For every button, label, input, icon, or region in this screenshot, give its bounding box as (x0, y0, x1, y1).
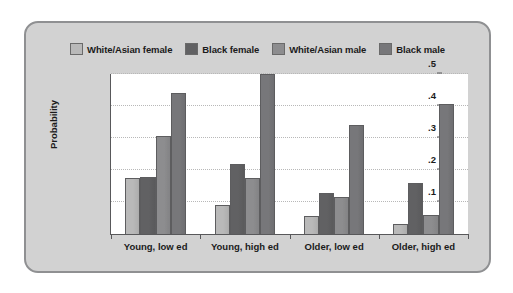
x-tick-mark (468, 234, 469, 239)
legend-item[interactable]: White/Asian male (272, 43, 366, 55)
x-tick-mark (111, 234, 112, 239)
bar[interactable] (304, 216, 319, 234)
x-tick-label: Young, low ed (124, 241, 188, 252)
bar[interactable] (319, 193, 334, 234)
x-tick-label: Young, high ed (211, 241, 279, 252)
plot-area: .0.1.2.3.4.5 Young, low edYoung, high ed… (110, 74, 468, 235)
bar[interactable] (349, 125, 364, 234)
x-tick-label: Older, low ed (305, 241, 364, 252)
bar[interactable] (423, 215, 438, 234)
bar-group (290, 74, 379, 234)
legend-item[interactable]: Black male (379, 43, 445, 55)
legend-label: Black female (202, 44, 259, 55)
x-tick-mark (290, 234, 291, 239)
figure-frame: White/Asian femaleBlack femaleWhite/Asia… (24, 21, 491, 273)
legend-swatch-icon (70, 43, 83, 55)
x-tick-mark (200, 234, 201, 239)
bar[interactable] (215, 205, 230, 234)
bars-layer (111, 74, 468, 234)
bar[interactable] (171, 93, 186, 234)
x-tick-label: Older, high ed (392, 241, 455, 252)
bar[interactable] (408, 183, 423, 234)
legend-item[interactable]: White/Asian female (70, 43, 172, 55)
y-axis-title: Probability (48, 80, 59, 170)
bar[interactable] (140, 177, 155, 234)
x-tick-mark (379, 234, 380, 239)
bar[interactable] (230, 164, 245, 234)
plot-wrapper: .0.1.2.3.4.5 Young, low edYoung, high ed… (84, 74, 468, 235)
bar-group (111, 74, 200, 234)
bar-group (200, 74, 289, 234)
y-tick-label: .5 (414, 58, 436, 69)
bar[interactable] (245, 178, 260, 234)
bar[interactable] (156, 136, 171, 234)
legend-swatch-icon (379, 43, 392, 55)
chart-legend: White/Asian femaleBlack femaleWhite/Asia… (26, 43, 489, 55)
legend-item[interactable]: Black female (185, 43, 259, 55)
legend-label: White/Asian female (87, 44, 172, 55)
bar[interactable] (334, 197, 349, 234)
bar-group (379, 74, 468, 234)
bar[interactable] (393, 224, 408, 234)
bar[interactable] (439, 104, 454, 234)
bar[interactable] (125, 178, 140, 234)
bar[interactable] (260, 74, 275, 234)
legend-label: White/Asian male (289, 44, 366, 55)
legend-swatch-icon (272, 43, 285, 55)
legend-swatch-icon (185, 43, 198, 55)
legend-label: Black male (396, 44, 445, 55)
